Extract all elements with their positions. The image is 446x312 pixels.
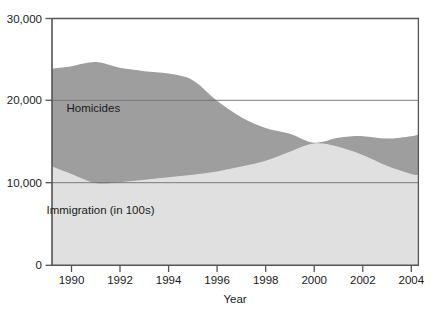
series-label-homicides: Homicides (66, 102, 120, 114)
x-tick-label-2000: 2000 (301, 274, 327, 286)
x-axis-title: Year (223, 293, 246, 305)
stacked-area-chart: 30,000 20,000 10,000 0 1990 1992 1994 19… (0, 0, 446, 312)
x-tick-label-2002: 2002 (350, 274, 376, 286)
series-label-immigration: Immigration (in 100s) (46, 204, 154, 216)
x-tick-label-1998: 1998 (253, 274, 279, 286)
x-tick-label-1990: 1990 (59, 274, 85, 286)
x-tick-label-1996: 1996 (204, 274, 230, 286)
x-tick-label-1992: 1992 (107, 274, 133, 286)
chart-canvas: 30,000 20,000 10,000 0 1990 1992 1994 19… (0, 0, 446, 312)
x-tick-label-1994: 1994 (156, 274, 182, 286)
y-tick-label-20000: 20,000 (7, 94, 42, 106)
y-tick-label-0: 0 (36, 259, 42, 271)
x-tick-label-2004: 2004 (399, 274, 425, 286)
y-tick-label-30000: 30,000 (7, 13, 42, 25)
y-tick-label-10000: 10,000 (7, 177, 42, 189)
